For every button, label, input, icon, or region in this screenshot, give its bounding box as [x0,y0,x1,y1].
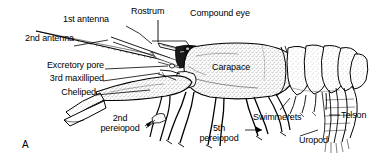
label-fifth-pereiopod-line2: pereiopod [190,133,248,143]
excretory-pore [169,64,174,68]
label-cheliped: Cheliped [26,87,96,97]
label-uropod: Uropod [299,135,328,145]
label-rostrum: Rostrum [131,6,164,16]
label-second-pereiopod-line1: 2nd [92,113,148,123]
panel-letter: A [22,139,29,150]
crayfish-anatomy-figure: 2nd antenna 1st antenna Rostrum Compound… [0,0,379,165]
label-second-pereiopod-line2: pereiopod [92,123,148,133]
label-telson: Telson [341,110,366,120]
label-excretory-pore: Excretory pore [10,60,104,70]
leader-line-excretory-pore [105,66,168,69]
label-carapace: Carapace [212,62,250,72]
abdomen-segments [287,45,368,95]
second-pereiopod-chela [146,114,166,129]
label-compound-eye: Compound eye [190,8,250,18]
label-third-maxilliped: 3rd maxilliped [6,73,104,83]
label-swimmerets: Swimmerets [253,112,302,122]
leader-line-first-antenna [126,26,152,44]
arrowhead-fifth-pereiopod [255,126,262,133]
label-second-antenna: 2nd antenna [4,33,74,43]
label-first-antenna: 1st antenna [63,14,109,24]
label-fifth-pereiopod-line1: 5th [196,123,242,133]
